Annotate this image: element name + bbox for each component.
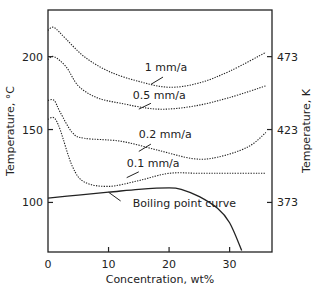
y-tick-label: 200 <box>22 51 43 64</box>
x-axis-title: Concentration, wt% <box>106 273 215 286</box>
leader-line <box>109 192 121 201</box>
curve-label-boiling-point-curve: Boiling point curve <box>133 197 236 210</box>
corrosion-rate-chart: 0102030100150200373423473 1 mm/a0.5 mm/a… <box>0 0 322 293</box>
y2-tick-label: 473 <box>277 51 298 64</box>
leader-line <box>139 103 151 109</box>
leader-line <box>151 77 163 84</box>
curve-label-0-2-mm-a: 0.2 mm/a <box>139 128 192 141</box>
x-tick-label: 10 <box>102 258 116 271</box>
curve-label-0-5-mm-a: 0.5 mm/a <box>133 89 186 102</box>
y2-axis-title: Temperature, K <box>300 88 313 174</box>
leader-line <box>127 172 139 178</box>
curve-label-1-mm-a: 1 mm/a <box>145 61 187 74</box>
curve-label-0-1-mm-a: 0.1 mm/a <box>127 157 180 170</box>
x-tick-label: 20 <box>162 258 176 271</box>
x-tick-label: 0 <box>45 258 52 271</box>
curve-1-mm-a <box>48 27 266 87</box>
y2-tick-label: 423 <box>277 124 298 137</box>
y-axis-title: Temperature, °C <box>4 86 17 177</box>
y-tick-label: 150 <box>22 124 43 137</box>
y2-tick-label: 373 <box>277 196 298 209</box>
y-tick-label: 100 <box>22 196 43 209</box>
x-tick-label: 30 <box>223 258 237 271</box>
